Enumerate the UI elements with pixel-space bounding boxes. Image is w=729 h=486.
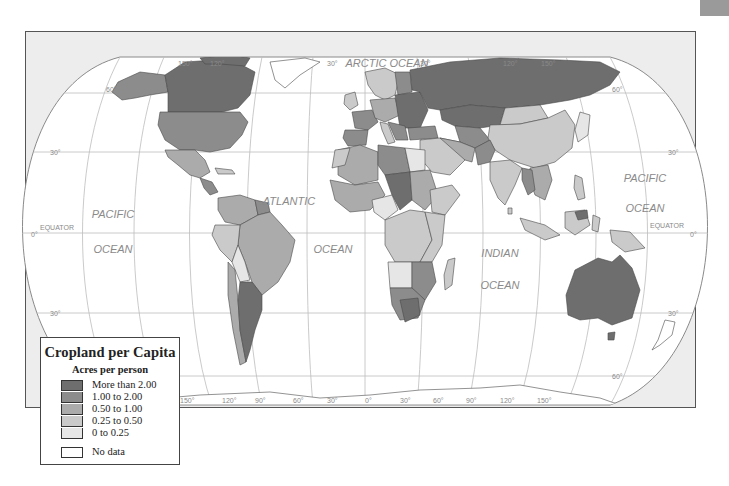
label-lat-30s-right: 30° xyxy=(668,310,679,317)
label-lon-bot-120e: 120° xyxy=(500,397,515,404)
label-lat-60s-right: 60° xyxy=(612,373,623,380)
label-indian: INDIAN xyxy=(481,247,518,259)
island-sri-lanka xyxy=(508,208,512,214)
legend-classes: More than 2.00 1.00 to 2.00 0.50 to 1.00… xyxy=(61,379,179,439)
country-spain xyxy=(343,130,368,146)
legend-subtitle: Acres per person xyxy=(41,364,179,375)
country-finland xyxy=(395,72,412,95)
island-tasmania xyxy=(608,332,615,340)
map-legend: Cropland per Capita Acres per person Mor… xyxy=(40,337,180,465)
legend-row: 0 to 0.25 xyxy=(61,427,179,439)
legend-swatch xyxy=(61,392,83,403)
label-lon-bot-30e: 30° xyxy=(400,397,411,404)
label-lon-top-30w: 30° xyxy=(327,60,338,67)
label-lat-0-right: 0° xyxy=(690,231,697,238)
label-lon-bot-120w: 120° xyxy=(222,397,237,404)
label-pacific-east: PACIFIC xyxy=(624,172,667,184)
label-lat-30n-left: 30° xyxy=(50,149,61,156)
legend-swatch xyxy=(61,428,83,439)
label-lon-top-150w: 150° xyxy=(178,60,193,67)
label-lat-60n-left: 60° xyxy=(106,86,117,93)
legend-swatch xyxy=(61,416,83,427)
label-lon-bot-0: 0° xyxy=(365,397,372,404)
legend-label: 1.00 to 2.00 xyxy=(92,391,142,403)
label-lon-bot-150e: 150° xyxy=(537,397,552,404)
legend-swatch xyxy=(61,404,83,415)
label-arctic-ocean: ARCTIC OCEAN xyxy=(344,57,428,69)
legend-label: 0.50 to 1.00 xyxy=(92,403,142,415)
legend-no-data: No data xyxy=(61,446,179,458)
legend-swatch-no-data xyxy=(61,447,83,458)
legend-swatch xyxy=(61,380,83,391)
label-lon-bot-60w: 60° xyxy=(293,397,304,404)
legend-label: 0.25 to 0.50 xyxy=(92,415,142,427)
country-turkey xyxy=(408,126,438,140)
label-equator-right: EQUATOR xyxy=(650,222,684,230)
country-angola xyxy=(388,262,412,288)
label-lon-bot-30w: 30° xyxy=(327,397,338,404)
legend-row: 0.25 to 0.50 xyxy=(61,415,179,427)
label-lon-top-30e: 30° xyxy=(420,60,431,67)
label-lon-top-150e: 150° xyxy=(541,60,556,67)
label-lon-bot-150w: 150° xyxy=(180,397,195,404)
label-lon-bot-90e: 90° xyxy=(466,397,477,404)
label-lat-30n-right: 30° xyxy=(668,149,679,156)
legend-label: 0 to 0.25 xyxy=(92,427,129,439)
label-lat-60n-right: 60° xyxy=(612,86,623,93)
label-ocean-pacific-west: OCEAN xyxy=(93,243,132,255)
label-lat-0-left: 0° xyxy=(31,231,38,238)
label-ocean-indian: OCEAN xyxy=(480,279,519,291)
legend-row: More than 2.00 xyxy=(61,379,179,391)
label-ocean-pacific-east: OCEAN xyxy=(625,202,664,214)
label-lat-30s-left: 30° xyxy=(50,310,61,317)
label-ocean-atlantic: OCEAN xyxy=(313,243,352,255)
legend-title: Cropland per Capita xyxy=(41,344,179,361)
legend-row: 1.00 to 2.00 xyxy=(61,391,179,403)
label-lon-bot-90w: 90° xyxy=(255,397,266,404)
label-pacific-west: PACIFIC xyxy=(92,208,135,220)
label-lon-bot-60e: 60° xyxy=(433,397,444,404)
label-atlantic: ATLANTIC xyxy=(262,195,315,207)
legend-row: 0.50 to 1.00 xyxy=(61,403,179,415)
label-lon-top-120e: 120° xyxy=(503,60,518,67)
legend-label: More than 2.00 xyxy=(92,379,156,391)
legend-label-no-data: No data xyxy=(92,446,125,458)
label-lon-top-120w: 120° xyxy=(210,60,225,67)
country-canada xyxy=(165,60,255,112)
label-equator-left: EQUATOR xyxy=(40,224,74,232)
